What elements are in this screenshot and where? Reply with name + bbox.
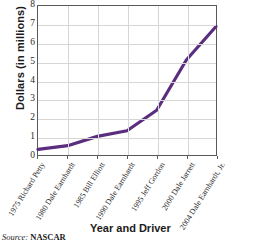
gridline-horizontal [38, 25, 216, 26]
y-tick-label: 5 [21, 57, 35, 67]
x-tick-label-driver: Jeff Gordon [138, 161, 167, 200]
y-tick-label: 4 [21, 76, 35, 86]
x-tick-mark [187, 156, 188, 159]
y-axis-tick-labels: 012345678 [21, 5, 35, 156]
gridline-horizontal [38, 63, 216, 64]
y-tick-label: 2 [21, 114, 35, 124]
gridline-horizontal [38, 119, 216, 120]
y-tick-label: 0 [21, 151, 35, 161]
x-tick-mark [127, 156, 128, 159]
gridline-vertical [158, 6, 159, 155]
source-note: Source: NASCAR [2, 232, 66, 242]
x-tick-label-driver: Dale Earnhardt [102, 161, 136, 209]
gridline-vertical [188, 6, 189, 155]
y-tick-label: 8 [21, 0, 35, 10]
x-axis-title: Year and Driver [90, 222, 220, 234]
x-tick-label-driver: Richard Petty [15, 161, 47, 205]
gridline-horizontal [38, 100, 216, 101]
gridline-vertical [128, 6, 129, 155]
source-label: Source: [2, 232, 28, 242]
x-tick-label-driver: Bill Elliott [80, 161, 107, 196]
gridline-vertical [98, 6, 99, 155]
plot-area [37, 5, 217, 156]
x-tick-mark [97, 156, 98, 159]
x-tick-label-driver: Dale Earnhardt [42, 161, 76, 209]
x-tick-mark [217, 156, 218, 159]
gridline-horizontal [38, 138, 216, 139]
gridline-horizontal [38, 82, 216, 83]
source-organization: NASCAR [30, 232, 65, 242]
x-tick-label: 1985 Bill Elliott [72, 161, 107, 210]
line-chart: Dollars (in millions) 012345678 1975 Ric… [0, 0, 262, 245]
y-tick-label: 6 [21, 38, 35, 48]
x-tick-mark [67, 156, 68, 159]
gridline-vertical [68, 6, 69, 155]
data-series-line [38, 6, 216, 155]
x-tick-label-driver: Dale Jarrett [168, 161, 196, 199]
y-tick-label: 7 [21, 19, 35, 29]
y-tick-label: 1 [21, 132, 35, 142]
x-tick-mark [37, 156, 38, 159]
x-tick-mark [157, 156, 158, 159]
y-tick-label: 3 [21, 95, 35, 105]
gridline-horizontal [38, 44, 216, 45]
series-polyline [38, 26, 216, 149]
